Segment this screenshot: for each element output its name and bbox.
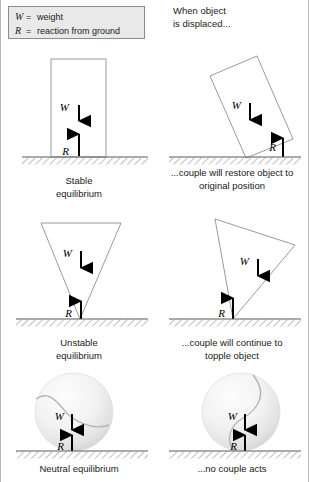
panel-rectangle-displaced: W R ...couple will restore object toorig… <box>157 46 307 192</box>
figure-sphere: W R <box>4 372 154 460</box>
weight-label: W <box>232 99 242 111</box>
ground-hatch <box>16 452 148 459</box>
reaction-label: R <box>217 307 225 319</box>
weight-label: W <box>63 247 73 259</box>
block-shape <box>215 219 295 319</box>
panel-neutral-equilibrium: W R Neutral equilibrium <box>4 372 154 476</box>
weight-label: W <box>60 101 70 113</box>
header-note: When objectis displaced... <box>173 5 231 30</box>
panel-stable-equilibrium: W R Stableequilibrium <box>4 54 154 200</box>
legend-meaning-weight: weight <box>37 11 63 24</box>
panel-caption: ...no couple acts <box>157 463 307 476</box>
legend-symbol-w: W <box>15 10 26 23</box>
ground-hatch <box>16 320 148 327</box>
ball-shape <box>35 373 113 451</box>
panel-unstable-equilibrium: W R Unstableequilibrium <box>4 216 154 362</box>
panel-triangle-displaced: W R ...couple will continue totopple obj… <box>157 216 307 362</box>
ground-hatch <box>169 320 301 327</box>
legend-symbol-r: R <box>15 24 26 37</box>
legend-row: W = weight <box>15 10 144 24</box>
legend-box: W = weight R = reaction from ground <box>8 6 145 39</box>
reaction-label: R <box>56 440 64 452</box>
legend-row: R = reaction from ground <box>15 24 144 38</box>
weight-label: W <box>228 410 238 422</box>
panel-caption: Unstableequilibrium <box>4 337 154 362</box>
reaction-label: R <box>229 440 237 452</box>
figure-triangle-tilted: W R <box>157 216 307 334</box>
ground-hatch <box>169 158 301 165</box>
figure-rectangle-tilted: W R <box>157 46 307 164</box>
figure-triangle-inverted: W R <box>4 216 154 334</box>
panel-caption: Stableequilibrium <box>4 175 154 200</box>
weight-label: W <box>55 410 65 422</box>
reaction-label: R <box>61 145 69 157</box>
figure-rectangle-upright: W R <box>4 54 154 172</box>
panel-sphere-displaced: W R ...no couple acts <box>157 372 307 476</box>
figure-sphere-rotated: W R <box>157 372 307 460</box>
ground-hatch <box>22 158 148 165</box>
panel-caption: Neutral equilibrium <box>4 463 154 476</box>
panel-caption: ...couple will continue totopple object <box>157 337 307 362</box>
reaction-label: R <box>64 307 72 319</box>
legend-equals: = <box>26 25 37 38</box>
legend-equals: = <box>26 11 37 24</box>
weight-label: W <box>240 255 250 267</box>
legend-meaning-reaction: reaction from ground <box>37 25 120 38</box>
ball-shape <box>202 373 280 451</box>
reaction-label: R <box>268 141 276 153</box>
diagram-page: W = weight R = reaction from ground When… <box>0 0 309 482</box>
ground-hatch <box>169 452 301 459</box>
block-shape <box>210 56 293 158</box>
